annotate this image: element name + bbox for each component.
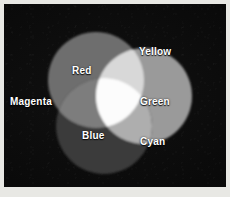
label-cyan: Cyan <box>140 136 165 147</box>
label-yellow: Yellow <box>139 46 171 57</box>
label-blue: Blue <box>82 130 104 141</box>
label-magenta: Magenta <box>10 96 52 107</box>
figure-frame: Red Yellow Magenta Green Blue Cyan <box>0 0 230 197</box>
label-green: Green <box>140 96 170 107</box>
diagram-plate: Red Yellow Magenta Green Blue Cyan <box>4 4 226 187</box>
label-red: Red <box>72 65 92 76</box>
